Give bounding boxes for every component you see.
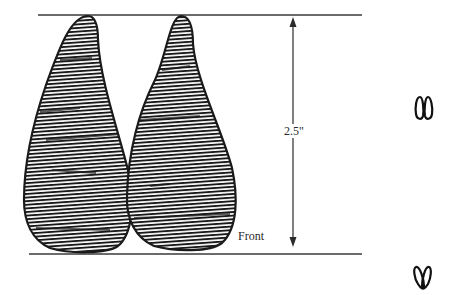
footprint-diagram [0,0,467,295]
left-footprint [20,14,140,259]
dimension-label: 2.5" [284,124,304,138]
right-footprint [120,14,244,259]
arrow-up-head [290,17,297,27]
orientation-icon-bottom [414,267,431,289]
arrow-down-head [290,237,297,247]
front-label: Front [238,230,264,242]
orientation-icon-top [416,97,433,119]
